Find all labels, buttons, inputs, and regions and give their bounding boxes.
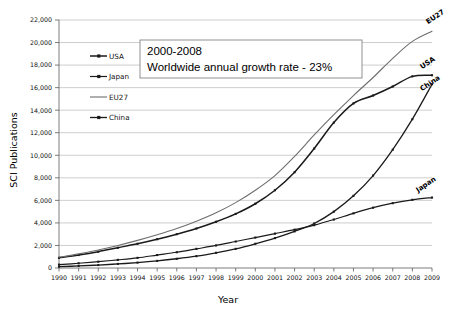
data-point-japan <box>254 237 256 239</box>
y-tick-label: 22,000 <box>30 16 52 23</box>
legend-label-japan: Japan <box>108 72 129 81</box>
data-point-china <box>313 222 315 224</box>
y-tick-label: 18,000 <box>30 61 52 68</box>
data-point-japan <box>411 199 413 201</box>
y-tick-label: 0 <box>48 264 52 271</box>
x-axis-title: Year <box>217 294 238 305</box>
data-point-usa <box>392 85 394 87</box>
data-point-china <box>136 262 138 264</box>
x-tick-label: 2005 <box>345 274 361 281</box>
data-point-china <box>78 265 80 267</box>
x-tick-label: 1995 <box>149 274 165 281</box>
annotation-line-2: Worldwide annual growth rate - 23% <box>147 61 332 73</box>
data-point-usa <box>156 238 158 240</box>
data-point-usa <box>411 75 413 77</box>
data-point-japan <box>392 202 394 204</box>
x-tick-label: 1993 <box>110 274 126 281</box>
data-point-china <box>235 248 237 250</box>
data-point-china <box>411 118 413 120</box>
data-point-japan <box>235 240 237 242</box>
data-point-china <box>372 175 374 177</box>
data-point-china <box>195 255 197 257</box>
data-point-usa <box>215 221 217 223</box>
data-point-usa <box>352 102 354 104</box>
data-point-china <box>333 211 335 213</box>
data-point-japan <box>215 244 217 246</box>
y-tick-label: 16,000 <box>30 84 52 91</box>
x-tick-label: 2003 <box>306 274 322 281</box>
data-point-japan <box>195 248 197 250</box>
sci-publications-line-chart: 02,0004,0006,0008,00010,00012,00014,0001… <box>0 0 451 314</box>
data-point-japan <box>274 233 276 235</box>
data-point-usa <box>274 189 276 191</box>
data-point-china <box>156 260 158 262</box>
data-point-japan <box>97 261 99 263</box>
annotation-line-1: 2000-2008 <box>147 45 202 57</box>
data-point-japan <box>58 264 60 266</box>
data-point-usa <box>313 147 315 149</box>
x-tick-label: 2006 <box>365 274 381 281</box>
data-point-japan <box>78 262 80 264</box>
y-tick-label: 14,000 <box>30 107 52 114</box>
data-point-usa <box>333 122 335 124</box>
legend-label-eu27: EU27 <box>109 93 128 102</box>
x-tick-label: 1999 <box>228 274 244 281</box>
data-point-japan <box>372 207 374 209</box>
data-point-china <box>117 263 119 265</box>
x-tick-label: 2004 <box>326 274 342 281</box>
data-point-usa <box>372 94 374 96</box>
legend-marker-usa <box>97 54 100 57</box>
x-tick-label: 1994 <box>130 274 146 281</box>
data-point-japan <box>333 218 335 220</box>
data-point-usa <box>136 243 138 245</box>
x-tick-label: 2000 <box>247 274 263 281</box>
y-tick-label: 6,000 <box>34 197 52 204</box>
x-tick-label: 2007 <box>385 274 401 281</box>
data-point-japan <box>136 257 138 259</box>
chart-container: 02,0004,0006,0008,00010,00012,00014,0001… <box>0 0 451 314</box>
data-point-usa <box>254 203 256 205</box>
x-tick-label: 1996 <box>169 274 185 281</box>
x-tick-label: 2002 <box>287 274 303 281</box>
data-point-china <box>294 230 296 232</box>
data-point-china <box>215 252 217 254</box>
y-tick-label: 4,000 <box>34 219 52 226</box>
data-point-china <box>352 195 354 197</box>
legend-label-china: China <box>109 113 130 122</box>
data-point-japan <box>176 251 178 253</box>
legend-marker-japan <box>97 75 100 78</box>
data-point-japan <box>352 212 354 214</box>
x-tick-label: 2009 <box>424 274 440 281</box>
data-point-usa <box>235 213 237 215</box>
data-point-usa <box>176 233 178 235</box>
data-point-usa <box>195 228 197 230</box>
x-tick-label: 1992 <box>90 274 106 281</box>
data-point-china <box>97 264 99 266</box>
legend-label-usa: USA <box>109 52 124 61</box>
data-point-japan <box>117 259 119 261</box>
y-tick-label: 10,000 <box>30 152 52 159</box>
data-point-china <box>176 258 178 260</box>
x-tick-label: 1990 <box>51 274 67 281</box>
data-point-china <box>274 237 276 239</box>
y-tick-label: 2,000 <box>34 242 52 249</box>
annotation-box: 2000-2008 Worldwide annual growth rate -… <box>140 40 362 78</box>
data-point-usa <box>294 171 296 173</box>
data-point-usa <box>97 251 99 253</box>
data-point-china <box>254 243 256 245</box>
x-tick-label: 1998 <box>208 274 224 281</box>
x-tick-label: 1991 <box>71 274 87 281</box>
y-axis-title: SCI Publications <box>8 112 19 188</box>
x-tick-label: 1997 <box>188 274 204 281</box>
legend-marker-china <box>97 116 100 119</box>
data-point-china <box>392 149 394 151</box>
y-tick-label: 20,000 <box>30 39 52 46</box>
x-tick-label: 2001 <box>267 274 283 281</box>
data-point-japan <box>156 254 158 256</box>
y-tick-label: 8,000 <box>34 174 52 181</box>
data-point-china <box>58 266 60 268</box>
x-tick-label: 2008 <box>404 274 420 281</box>
y-tick-label: 12,000 <box>30 129 52 136</box>
data-point-japan <box>431 197 433 199</box>
data-point-usa <box>117 247 119 249</box>
